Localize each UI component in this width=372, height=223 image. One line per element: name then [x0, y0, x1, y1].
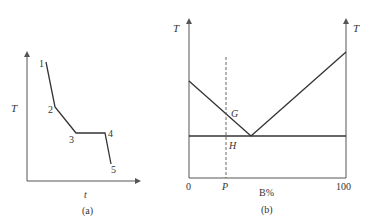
- x-tick-0: 0: [186, 181, 191, 192]
- panel-b-phase-diagram: G H T T 0 P B% 100 (b): [173, 21, 360, 216]
- panel-b-right-axis-label: T: [353, 22, 360, 34]
- panel-b-left-axis-label: T: [173, 22, 180, 34]
- panel-a-y-axis-label: T: [11, 102, 18, 114]
- panel-b-caption: (b): [261, 204, 273, 216]
- x-tick-100: 100: [336, 181, 351, 192]
- point-label-H: H: [228, 140, 237, 151]
- point-label-1: 1: [39, 58, 44, 69]
- cooling-curve-line: [46, 62, 111, 164]
- liquidus-right-line: [251, 52, 346, 136]
- point-label-2: 2: [48, 104, 53, 115]
- panel-a-x-axis-label: t: [84, 189, 87, 200]
- x-tick-P: P: [221, 181, 228, 192]
- point-label-G: G: [231, 108, 238, 119]
- panel-b-x-axis-label: B%: [259, 187, 274, 198]
- liquidus-left-line: [189, 81, 251, 136]
- panel-a-caption: (a): [82, 205, 93, 217]
- panel-a-cooling-curve: 1 2 3 4 5 T t (a): [11, 54, 138, 217]
- point-label-3: 3: [69, 134, 74, 145]
- diagram-canvas: 1 2 3 4 5 T t (a) G H T T 0 P B% 100 (b): [0, 0, 372, 223]
- point-label-4: 4: [108, 128, 113, 139]
- point-label-5: 5: [111, 164, 116, 175]
